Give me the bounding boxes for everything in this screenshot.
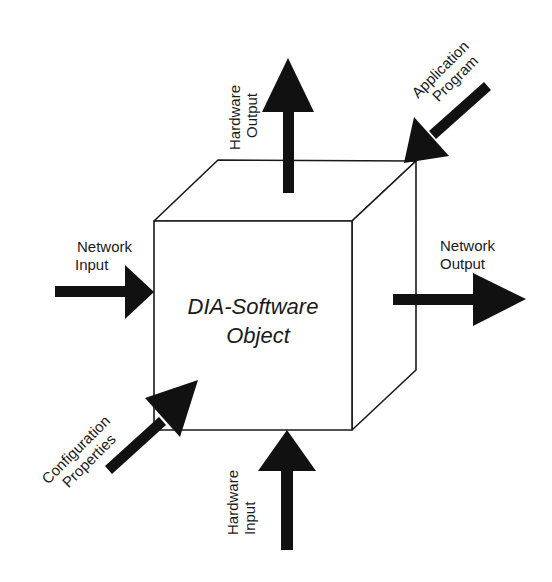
label-network-input: Network Input — [75, 238, 133, 273]
svg-text:Input: Input — [241, 501, 258, 535]
svg-text:Hardware: Hardware — [226, 85, 243, 150]
svg-text:Hardware: Hardware — [224, 470, 241, 535]
center-label-line1: DIA-Software — [188, 294, 319, 319]
svg-text:Output: Output — [243, 92, 260, 138]
svg-text:Input: Input — [75, 256, 109, 273]
svg-text:Network: Network — [77, 238, 133, 255]
center-label-line2: Object — [226, 323, 290, 348]
dia-software-object-diagram: DIA-Software Object Hardware Output Appl… — [0, 0, 552, 582]
label-hardware-output: Hardware Output — [226, 85, 260, 150]
svg-text:Output: Output — [440, 255, 486, 272]
arrow-hardware-input — [258, 430, 316, 550]
svg-text:Network: Network — [440, 237, 496, 254]
label-hardware-input: Hardware Input — [224, 470, 258, 535]
label-configuration-properties: Configuration Properties — [38, 412, 125, 499]
arrow-network-input — [55, 265, 154, 319]
label-network-output: Network Output — [440, 237, 496, 272]
